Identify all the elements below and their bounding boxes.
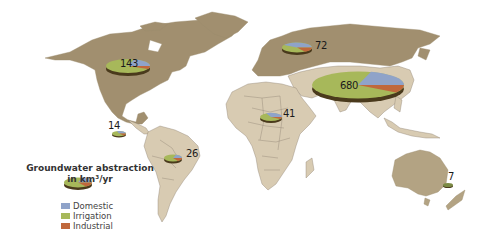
pie-africa	[260, 113, 282, 123]
legend-item-domestic: Domestic	[61, 201, 113, 211]
value-label-south-america: 26	[186, 148, 198, 159]
industrial-swatch-icon	[61, 223, 70, 229]
pie-oceania	[443, 183, 453, 188]
pie-south-america	[164, 155, 182, 164]
irrigation-swatch-icon	[61, 213, 70, 219]
pie-central-america	[112, 131, 126, 138]
legend-title: Groundwater abstraction in km³/yr	[20, 163, 160, 185]
value-label-oceania: 7	[448, 171, 454, 182]
value-label-north-america: 143	[120, 58, 138, 69]
legend-items: Domestic Irrigation Industrial	[61, 201, 113, 231]
domestic-swatch-icon	[61, 203, 70, 209]
value-label-central-america: 14	[108, 120, 120, 131]
value-label-europe: 72	[315, 40, 327, 51]
pie-europe	[282, 42, 312, 55]
africa	[226, 82, 316, 190]
legend-item-industrial: Industrial	[61, 221, 113, 231]
legend-item-irrigation: Irrigation	[61, 211, 113, 221]
value-label-asia: 680	[340, 80, 358, 91]
value-label-africa: 41	[283, 108, 295, 119]
